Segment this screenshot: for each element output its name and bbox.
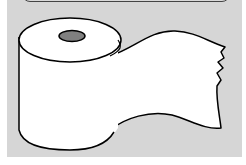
roll-core-hole [59,31,85,42]
toilet-paper-roll-icon [0,0,246,165]
paper-sheet [110,31,225,130]
